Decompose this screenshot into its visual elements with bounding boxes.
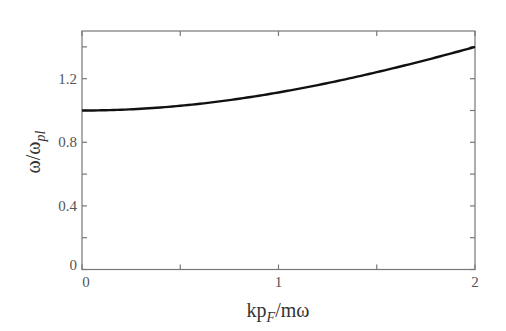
data-line	[82, 47, 475, 111]
y-tick-label: 0	[70, 257, 78, 273]
axis-ticks	[82, 31, 475, 270]
x-tick-label: 0	[82, 274, 90, 290]
y-axis-label: ω/ωpl	[22, 131, 48, 174]
x-tick-label: 1	[275, 274, 283, 290]
line-chart: 01200.40.81.2 kpF/mω ω/ωpl	[0, 0, 506, 331]
y-tick-label: 0.4	[58, 198, 77, 214]
x-tick-label: 2	[471, 274, 479, 290]
tick-labels: 01200.40.81.2	[58, 71, 479, 290]
y-tick-label: 0.8	[58, 134, 77, 150]
plot-frame	[82, 31, 475, 270]
x-axis-label: kpF/mω	[247, 299, 310, 325]
y-tick-label: 1.2	[58, 71, 77, 87]
